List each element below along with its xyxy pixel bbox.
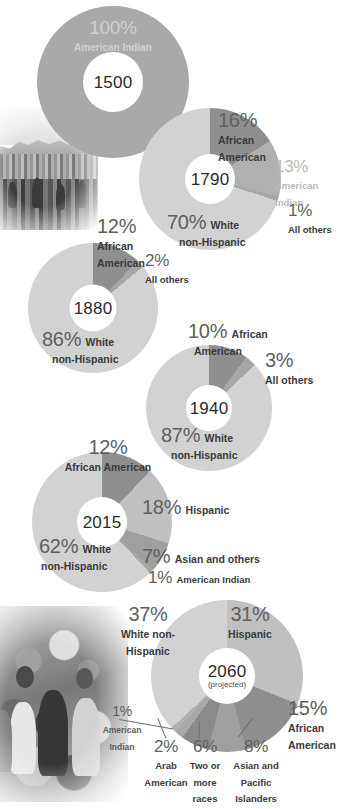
chart-1880-year: 1880 bbox=[74, 300, 113, 317]
label-1880-african-american: 12% African American bbox=[97, 216, 145, 271]
label-2060-asian-pacific: 8% Asian and Pacific Islanders bbox=[225, 738, 287, 806]
label-2060-african-american: 15% African American bbox=[288, 698, 336, 753]
label-1790-african-american-name-line2: American bbox=[218, 151, 266, 163]
label-1940-white-name-line2: non-Hispanic bbox=[171, 449, 238, 461]
label-2015-hispanic-pct: 18% bbox=[142, 496, 181, 518]
label-1790-white-name-line2: non-Hispanic bbox=[179, 236, 246, 248]
label-2060-two-or-more-name-line2: more bbox=[193, 777, 216, 788]
label-2060-white: 37% White non- Hispanic bbox=[108, 604, 188, 659]
label-1880-white: 86% White non-Hispanic bbox=[42, 329, 119, 367]
label-2015-hispanic-name: Hispanic bbox=[186, 504, 230, 516]
label-2015-white: 62% White non-Hispanic bbox=[39, 536, 111, 574]
label-1940-african-american: 10% African American bbox=[188, 321, 268, 359]
label-2060-hispanic-name: Hispanic bbox=[228, 628, 272, 640]
label-1880-african-american-name-line1: African bbox=[97, 240, 133, 252]
label-2060-american-indian-name-line1: American bbox=[103, 725, 142, 735]
chart-1790-year: 1790 bbox=[191, 171, 230, 188]
label-2015-asian-and-others: 7% Asian and others bbox=[142, 546, 260, 567]
label-1790-african-american-name-line1: African bbox=[218, 134, 254, 146]
label-1790-african-american-pct: 16% bbox=[218, 109, 257, 131]
label-2060-two-or-more-pct: 6% bbox=[193, 737, 217, 756]
label-2060-hispanic: 31% Hispanic bbox=[214, 604, 286, 642]
label-2060-asian-pacific-name-line3: Islanders bbox=[235, 793, 277, 804]
label-2060-hispanic-pct: 31% bbox=[230, 603, 269, 625]
label-2060-asian-pacific-name-line1: Asian and bbox=[233, 760, 278, 771]
label-1880-all-others-pct: 2% bbox=[145, 251, 169, 270]
label-2060-white-pct: 37% bbox=[128, 603, 167, 625]
label-2060-white-name-line2: Hispanic bbox=[126, 645, 170, 657]
label-1880-all-others: 2% All others bbox=[145, 252, 189, 287]
chart-1880-hub: 1880 bbox=[70, 285, 117, 332]
label-1790-american-indian-pct: 13% bbox=[275, 157, 308, 176]
label-2060-asian-pacific-pct: 8% bbox=[244, 737, 268, 756]
label-1790-white-pct: 70% bbox=[167, 211, 206, 233]
chart-2060-projected-note: (projected) bbox=[208, 681, 246, 689]
chart-2060-year: 2060 bbox=[208, 663, 247, 680]
label-1500-american-indian: 100% American Indian bbox=[57, 18, 169, 55]
label-2060-arab-american-name-line1: Arab bbox=[155, 760, 177, 771]
label-1880-african-american-pct: 12% bbox=[97, 215, 136, 237]
label-1500-american-indian-pct: 100% bbox=[89, 17, 136, 38]
label-2060-american-indian-name-line2: Indian bbox=[109, 742, 134, 752]
label-2060-arab-american-name-line2: American bbox=[144, 777, 187, 788]
label-1940-all-others-pct: 3% bbox=[265, 349, 293, 371]
label-2015-asian-and-others-name: Asian and others bbox=[175, 553, 260, 565]
label-1790-american-indian-name-line1: American bbox=[275, 180, 318, 191]
label-1940-all-others-name: All others bbox=[265, 374, 313, 386]
label-2015-white-name-line1: White bbox=[83, 543, 112, 555]
label-1790-white: 70% White non-Hispanic bbox=[167, 212, 246, 250]
label-1880-white-pct: 86% bbox=[42, 328, 81, 350]
label-1880-all-others-name: All others bbox=[145, 274, 189, 285]
label-1790-all-others: 1% All others bbox=[288, 202, 332, 237]
label-1940-african-american-name-line2: American bbox=[194, 345, 242, 357]
label-2060-two-or-more-name-line1: Two or bbox=[190, 760, 220, 771]
label-1940-african-american-pct: 10% bbox=[188, 320, 227, 342]
label-2015-american-indian: 1% American Indian bbox=[148, 569, 250, 587]
label-2015-american-indian-pct: 1% bbox=[148, 568, 172, 587]
label-1940-white-name-line1: White bbox=[205, 432, 234, 444]
label-1500-american-indian-name: American Indian bbox=[74, 42, 152, 53]
label-2015-african-american: 12% African American bbox=[52, 437, 164, 475]
label-2060-american-indian-pct: 1% bbox=[112, 703, 132, 719]
label-2015-white-pct: 62% bbox=[39, 535, 78, 557]
label-2015-asian-and-others-pct: 7% bbox=[142, 545, 170, 567]
label-1940-african-american-name-line1: African bbox=[232, 328, 268, 340]
label-2015-african-american-pct: 12% bbox=[88, 436, 127, 458]
chart-1500-hub: 1500 bbox=[83, 52, 143, 112]
label-1940-white-pct: 87% bbox=[161, 424, 200, 446]
label-1880-african-american-name-line2: American bbox=[97, 257, 145, 269]
label-1790-african-american: 16% African American bbox=[218, 110, 266, 165]
chart-2015-year: 2015 bbox=[83, 514, 122, 531]
label-1940-white: 87% White non-Hispanic bbox=[161, 425, 238, 463]
chart-2060-hub: 2060 (projected) bbox=[199, 648, 255, 704]
chart-1500-year: 1500 bbox=[94, 74, 133, 91]
label-1790-all-others-name: All others bbox=[288, 224, 332, 235]
chart-1940-year: 1940 bbox=[190, 400, 229, 417]
label-2060-african-american-pct: 15% bbox=[288, 697, 327, 719]
label-2060-african-american-name-line2: American bbox=[288, 739, 336, 751]
label-2015-american-indian-name: American Indian bbox=[176, 574, 250, 585]
label-2060-african-american-name-line1: African bbox=[288, 722, 324, 734]
label-2060-two-or-more-name-line3: races bbox=[193, 793, 218, 804]
label-1790-all-others-pct: 1% bbox=[288, 201, 312, 220]
infographic-canvas: 1500 100% American Indian 1790 16% Afric… bbox=[0, 0, 343, 809]
label-1790-white-name-line1: White bbox=[211, 219, 240, 231]
label-1940-all-others: 3% All others bbox=[265, 350, 313, 388]
label-2015-white-name-line2: non-Hispanic bbox=[41, 560, 108, 572]
label-2060-white-name-line1: White non- bbox=[121, 628, 175, 640]
label-2015-african-american-name: African American bbox=[65, 461, 152, 473]
label-2060-american-indian: 1% American Indian bbox=[96, 703, 148, 753]
label-2060-asian-pacific-name-line2: Pacific bbox=[241, 777, 272, 788]
label-2015-hispanic: 18% Hispanic bbox=[142, 497, 229, 518]
label-2060-arab-american-pct: 2% bbox=[154, 737, 178, 756]
label-1880-white-name-line2: non-Hispanic bbox=[52, 353, 119, 365]
label-1880-white-name-line1: White bbox=[86, 336, 115, 348]
